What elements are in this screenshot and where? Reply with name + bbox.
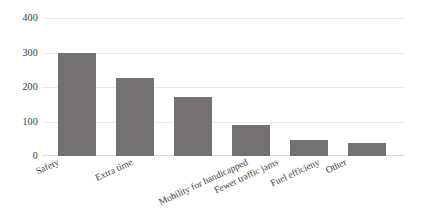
- y-tick-label: 300: [4, 48, 38, 58]
- x-tick-label-other: Other: [324, 157, 348, 176]
- bar-other[interactable]: [348, 143, 386, 156]
- bars-layer: [42, 18, 404, 156]
- bar-chart: 400 300 200 100 0: [0, 0, 423, 221]
- bar-mobility-for-handicapped[interactable]: [174, 97, 212, 156]
- x-tick-label-safety: Safety: [34, 157, 60, 177]
- y-tick-label: 0: [4, 151, 38, 161]
- bar-fuel-efficieny[interactable]: [290, 140, 328, 156]
- x-axis-categories: Safety Extra time Mobility for handicapp…: [42, 157, 423, 221]
- bar-extra-time[interactable]: [116, 78, 154, 156]
- y-tick-label: 200: [4, 82, 38, 92]
- bar-safety[interactable]: [58, 53, 96, 157]
- bar-fewer-traffic-jams[interactable]: [232, 125, 270, 156]
- y-tick-label: 100: [4, 117, 38, 127]
- y-tick-label: 400: [4, 13, 38, 23]
- y-axis: 400 300 200 100 0: [0, 18, 38, 156]
- x-tick-label-extra-time: Extra time: [94, 157, 135, 183]
